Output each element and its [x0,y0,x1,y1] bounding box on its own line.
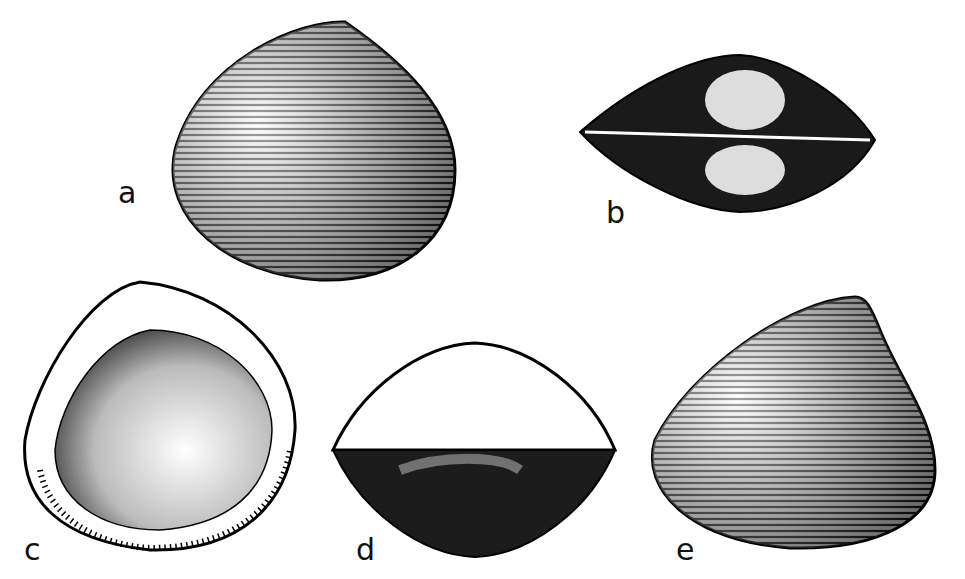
panel-label-c: c [24,535,41,565]
shell-d [333,343,615,557]
panel-label-b: b [606,198,625,228]
panel-label-e: e [676,535,694,565]
shell-plate [0,0,965,579]
panel-label-a: a [118,178,136,208]
panel-label-d: d [356,535,375,565]
shell-b [580,55,875,212]
shell-c [25,282,296,550]
shell-a [173,22,455,280]
shell-e [652,297,935,548]
